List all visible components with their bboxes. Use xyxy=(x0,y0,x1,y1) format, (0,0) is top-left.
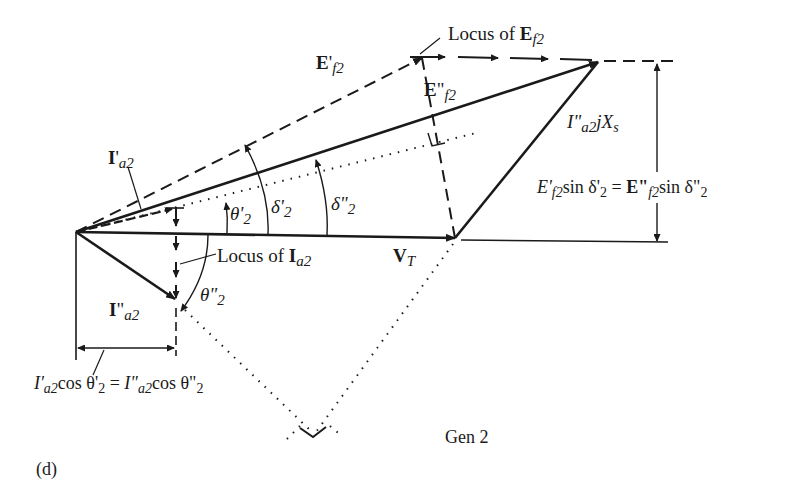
i-prime-a2-label: I'a2 xyxy=(108,147,134,171)
dotted-from-ia2 xyxy=(185,310,312,432)
theta-prime-2-arc xyxy=(226,203,227,233)
e-prime-f2-label: E'f2 xyxy=(316,52,344,76)
phasor-diagram: Locus of Ef2 E'f2 E"f2 I"a2jXs E'f2sin δ… xyxy=(0,0,787,503)
i-dprime-a2-label: I"a2 xyxy=(109,299,140,323)
theta-dprime-2-label: θ"2 xyxy=(200,284,225,308)
delta-prime-2-label: δ'2 xyxy=(271,196,292,220)
i-prime-a2-phasor xyxy=(76,209,172,232)
locus-ef2-seg3 xyxy=(510,58,548,59)
bottom-right-angle-mark xyxy=(300,427,326,437)
dim-right-label: E'f2sin δ'2 = E"f2sin δ"2 xyxy=(536,177,707,200)
e-dprime-f2-label: E"f2 xyxy=(424,79,457,103)
locus-ia2-label: Locus of Ia2 xyxy=(217,245,312,269)
vt-label: VT xyxy=(393,245,417,269)
locus-ef2-seg4 xyxy=(560,59,592,60)
dotted-ia2-direction xyxy=(76,132,480,232)
vt-phasor xyxy=(76,232,455,238)
ia2-jxs-label: I"a2jXs xyxy=(566,111,619,135)
dotted-ext-right xyxy=(330,426,342,436)
dotted-ext-left xyxy=(286,426,300,440)
dim-bottom-label: I'a2cos θ'2 = I"a2cos θ"2 xyxy=(33,373,203,396)
dotted-from-vt xyxy=(316,244,453,432)
dim-bottom-leader xyxy=(93,350,104,375)
ia2-jxs-phasor xyxy=(455,62,598,238)
delta-dprime-2-arc xyxy=(316,160,327,235)
locus-ef2-label: Locus of Ef2 xyxy=(448,23,545,47)
caption-gen2: Gen 2 xyxy=(445,427,489,447)
baseline-extension xyxy=(461,240,668,242)
delta-dprime-2-label: δ"2 xyxy=(331,193,356,217)
locus-ef2-seg2 xyxy=(458,57,498,58)
e-prime-f2-phasor xyxy=(76,58,422,232)
panel-label: (d) xyxy=(36,459,57,480)
locus-ef2-leader xyxy=(420,38,440,54)
theta-prime-2-label: θ'2 xyxy=(230,203,251,227)
locus-ia2-leader xyxy=(180,254,216,264)
i-dprime-a2-phasor xyxy=(76,232,175,299)
